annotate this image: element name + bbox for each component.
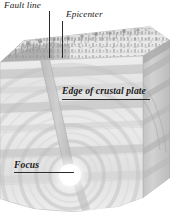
label-edge-of-crustal-plate: Edge of crustal plate [62,86,146,96]
label-epicenter: Epicenter [66,10,103,19]
focus-hypocenter [48,153,92,197]
epicenter-leader [62,21,63,58]
label-fault-line: Fault line [4,1,41,10]
edge-of-crustal-plate-leader [62,99,150,100]
right-side-face [143,40,170,198]
earthquake-diagram-figure: Fault line Epicenter Edge of crustal pla… [0,0,183,221]
focus-leader [14,172,74,173]
label-focus: Focus [14,160,39,170]
block-diagram-illustration [0,0,183,221]
fault-line-leader [49,11,50,58]
